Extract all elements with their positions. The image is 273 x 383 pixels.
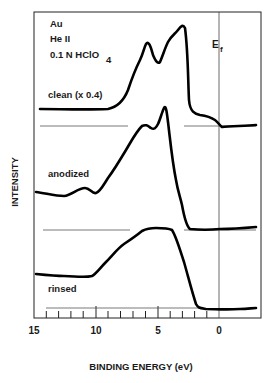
curve-label-clean: clean (x 0.4) <box>48 89 102 100</box>
tick-label-0: 0 <box>216 325 222 336</box>
fermi-label: E <box>212 39 219 50</box>
electrolyte-label: 0.1 N HClO <box>50 49 99 60</box>
fermi-subscript: f <box>220 45 223 54</box>
curve-label-rinsed: rinsed <box>48 283 77 294</box>
curve-label-anodized: anodized <box>48 168 89 179</box>
source-label: He II <box>50 33 70 44</box>
y-axis-title: INTENSITY <box>9 157 20 207</box>
tick-label-5: 5 <box>155 325 161 336</box>
electrolyte-subscript: 4 <box>106 54 112 65</box>
baselines <box>40 126 256 308</box>
element-label: Au <box>50 18 63 29</box>
tick-label-15: 15 <box>28 325 40 336</box>
curve-rinsed <box>36 228 256 309</box>
tick-label-10: 10 <box>90 325 102 336</box>
curve-clean <box>40 26 256 127</box>
spectra-chart: 15 10 5 0 BINDING ENERGY (eV) INTENSITY … <box>0 0 273 383</box>
x-axis-title: BINDING ENERGY (eV) <box>89 361 192 372</box>
